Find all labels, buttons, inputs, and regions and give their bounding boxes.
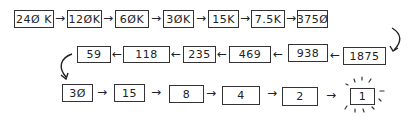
curved-arrow-right-icon xyxy=(392,28,400,50)
curved-arrow-left-icon xyxy=(61,54,72,77)
burst-rays-icon xyxy=(345,77,384,112)
connectors xyxy=(0,0,410,128)
